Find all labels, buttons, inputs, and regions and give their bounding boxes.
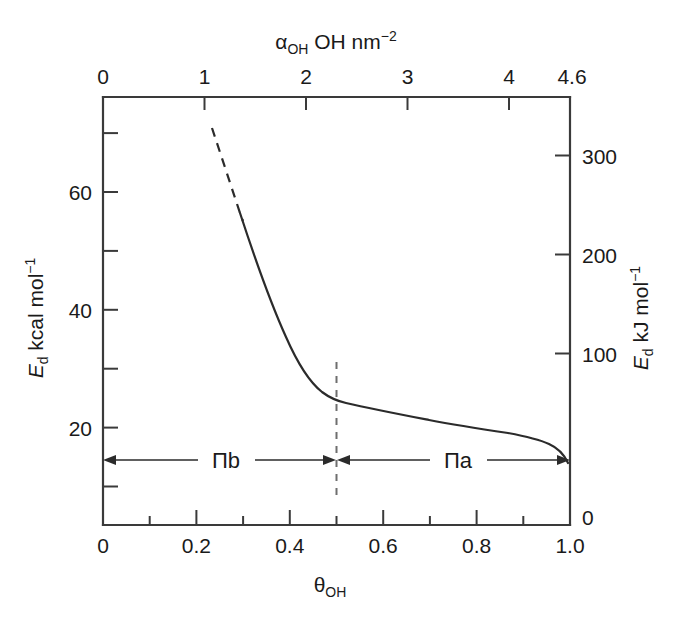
bottom-axis-minor-ticks [150, 516, 524, 525]
data-curves [212, 128, 568, 463]
right-axis-ticks [555, 156, 570, 354]
left-ticklabel-20: 20 [69, 417, 92, 440]
svg-text:θOH: θOH [314, 573, 347, 600]
left-axis-label-symbol: E [24, 363, 47, 378]
region-2b-arrow: Πb [103, 448, 336, 473]
chart-svg: 0 1 2 3 4 4.6 αOH OH nm−2 [0, 0, 673, 625]
bottom-ticklabel-1: 0.2 [182, 534, 211, 557]
left-axis-label-unit: kcal mol [24, 274, 47, 351]
left-axis-ticklabels: 60 40 20 [69, 181, 92, 440]
left-axis-label-subscript: d [35, 357, 51, 365]
right-ticklabel-0: 0 [582, 506, 594, 529]
left-ticklabel-40: 40 [69, 299, 92, 322]
bottom-ticklabel-4: 0.8 [462, 534, 491, 557]
bottom-ticklabel-0: 0 [97, 534, 109, 557]
top-ticklabel-2: 2 [300, 65, 312, 88]
right-axis-label-unit: kJ mol [629, 282, 652, 343]
arrowhead-left-2a [337, 455, 350, 465]
left-axis-label: Ed kcal mol−1 [22, 257, 51, 378]
bottom-axis-label-subscript: OH [325, 584, 346, 600]
top-axis-label: αOH OH nm−2 [275, 28, 397, 57]
region-2a-arrow: Πa [337, 448, 570, 473]
svg-text:Ed kJ mol−1: Ed kJ mol−1 [627, 266, 656, 371]
region-label-2a: Πa [444, 448, 473, 473]
top-axis-label-subscript: OH [287, 41, 308, 57]
svg-text:αOH OH nm−2: αOH OH nm−2 [275, 28, 397, 57]
bottom-axis-ticklabels: 0 0.2 0.4 0.6 0.8 1.0 [97, 534, 584, 557]
right-axis-ticklabels: 300 200 100 0 [582, 145, 617, 530]
right-axis-label-superscript: −1 [627, 266, 643, 282]
top-ticklabel-0: 0 [97, 65, 109, 88]
top-axis-ticklabels: 0 1 2 3 4 4.6 [97, 65, 586, 88]
bottom-ticklabel-2: 0.4 [275, 534, 305, 557]
left-axis-label-superscript: −1 [22, 257, 38, 273]
bottom-axis-label-symbol: θ [314, 573, 326, 596]
right-axis-label: Ed kJ mol−1 [627, 266, 656, 371]
right-axis-label-symbol: E [629, 355, 652, 370]
bottom-axis-label: θOH [314, 573, 347, 600]
left-axis-major-ticks [103, 192, 118, 428]
bottom-ticklabel-5: 1.0 [555, 534, 584, 557]
curve-extrapolated-dashed [212, 128, 243, 221]
top-axis-label-unit: OH nm [314, 30, 381, 53]
top-ticklabel-5: 4.6 [557, 65, 586, 88]
figure-container: 0 1 2 3 4 4.6 αOH OH nm−2 [0, 0, 673, 625]
arrowhead-left-2b [103, 455, 116, 465]
top-axis-label-superscript: −2 [381, 28, 397, 44]
right-ticklabel-100: 100 [582, 343, 617, 366]
arrowhead-right-2b [323, 455, 336, 465]
region-label-2b: Πb [212, 448, 240, 473]
top-ticklabel-1: 1 [199, 65, 211, 88]
curve-measured-solid [240, 213, 568, 463]
right-ticklabel-300: 300 [582, 145, 617, 168]
right-ticklabel-200: 200 [582, 244, 617, 267]
top-ticklabel-3: 3 [402, 65, 414, 88]
right-axis-label-subscript: d [640, 348, 656, 356]
bottom-ticklabel-3: 0.6 [369, 534, 398, 557]
left-ticklabel-60: 60 [69, 181, 92, 204]
top-axis-ticks [103, 97, 570, 110]
top-axis-label-symbol: α [275, 30, 287, 53]
top-ticklabel-4: 4 [503, 65, 515, 88]
svg-text:Ed kcal mol−1: Ed kcal mol−1 [22, 257, 51, 378]
